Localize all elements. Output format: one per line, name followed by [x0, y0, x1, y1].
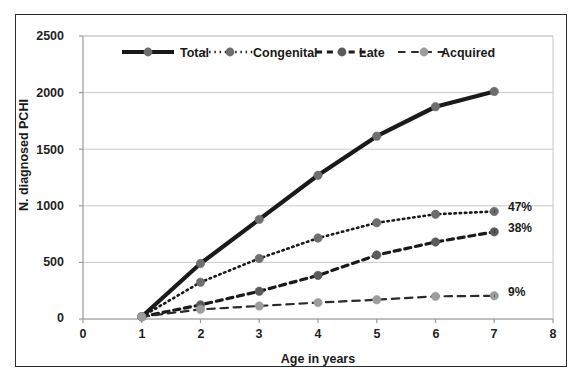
- series-lines: [138, 87, 499, 321]
- data-point-late-4: [314, 271, 322, 279]
- data-point-acquired-5: [373, 296, 381, 304]
- data-point-total-4: [314, 171, 322, 179]
- data-point-total-6: [431, 103, 439, 111]
- data-point-congenital-2: [196, 278, 204, 286]
- chart-plot-area: 2500 2000 1500 1000 500 0 N. diagnosed P…: [0, 0, 585, 385]
- data-point-acquired-6: [431, 292, 439, 300]
- data-point-late-3: [255, 287, 263, 295]
- legend-label-late[interactable]: Late: [359, 46, 385, 60]
- data-point-late-6: [431, 238, 439, 246]
- legend-marker-late: [338, 48, 347, 57]
- data-point-acquired-2: [196, 305, 204, 313]
- legend-marker-total: [144, 48, 153, 57]
- series-line-total: [142, 91, 495, 316]
- data-point-total-3: [255, 215, 263, 223]
- data-point-total-7: [490, 87, 498, 95]
- data-point-acquired-3: [255, 302, 263, 310]
- annotation-late-pct: 38%: [508, 221, 532, 235]
- annotation-acquired-pct: 9%: [508, 285, 525, 299]
- data-point-congenital-4: [314, 234, 322, 242]
- data-point-congenital-5: [373, 219, 381, 227]
- annotation-congenital-pct: 47%: [508, 200, 532, 214]
- data-point-acquired-1: [138, 313, 146, 321]
- data-point-acquired-4: [314, 298, 322, 306]
- data-point-congenital-6: [431, 210, 439, 218]
- legend-marker-acquired: [420, 48, 429, 57]
- legend-label-congenital[interactable]: Congenital: [253, 46, 318, 60]
- legend-marker-congenital: [226, 48, 235, 57]
- data-point-late-5: [373, 251, 381, 259]
- data-point-total-2: [196, 259, 204, 267]
- data-point-congenital-3: [255, 254, 263, 262]
- axis-lines: [79, 36, 553, 323]
- legend-label-acquired[interactable]: Acquired: [441, 46, 495, 60]
- legend-label-total[interactable]: Total: [180, 46, 209, 60]
- data-point-total-5: [373, 132, 381, 140]
